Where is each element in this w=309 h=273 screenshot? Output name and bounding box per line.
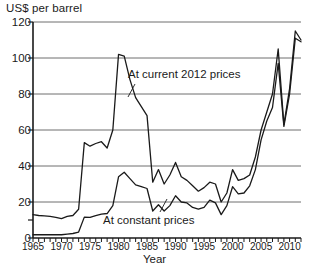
x-tick-1965: 1965: [22, 241, 44, 252]
x-tick-1990: 1990: [164, 241, 186, 252]
gridlines: [33, 22, 301, 202]
x-tick-2000: 2000: [221, 241, 243, 252]
plot-area: [0, 0, 309, 273]
x-tick-1970: 1970: [50, 241, 72, 252]
x-axis-title: Year: [0, 253, 309, 265]
x-tick-1985: 1985: [136, 241, 158, 252]
x-tick-2010: 2010: [278, 241, 300, 252]
constant-prices-annotation: At constant prices: [103, 214, 194, 226]
x-tick-1975: 1975: [79, 241, 101, 252]
x-tick-2005: 2005: [250, 241, 272, 252]
y-axis-line: [28, 22, 33, 238]
chart-figure: US$ per barrel 120 100 80 60 40 20 0: [0, 0, 309, 273]
current-prices-annotation: At current 2012 prices: [128, 68, 241, 80]
x-tick-1995: 1995: [193, 241, 215, 252]
series-line-current-prices: [33, 31, 301, 219]
x-tick-1980: 1980: [107, 241, 129, 252]
